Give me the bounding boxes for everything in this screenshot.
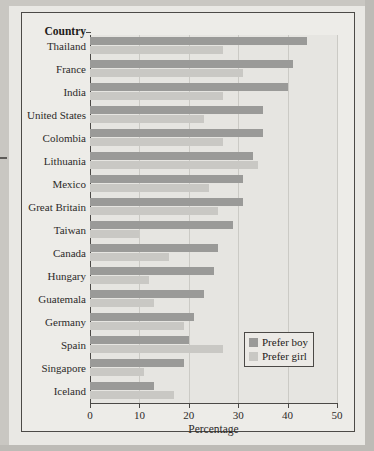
category-label-mexico: Mexico (22, 178, 86, 190)
x-axis-title: Percentage (90, 423, 337, 435)
bar-spain-prefer-girl (90, 345, 223, 353)
bar-france-prefer-boy (90, 60, 293, 68)
category-label-germany: Germany (22, 316, 86, 328)
category-label-canada: Canada (22, 247, 86, 259)
bar-singapore-prefer-boy (90, 359, 184, 367)
legend-label: Prefer girl (262, 350, 307, 362)
bar-guatemala-prefer-boy (90, 290, 204, 298)
figure-frame: Country 01020304050 ThailandFranceIndiaU… (21, 12, 355, 432)
bar-iceland-prefer-girl (90, 391, 174, 399)
legend-label: Prefer boy (262, 336, 308, 348)
bar-lithuania-prefer-girl (90, 161, 258, 169)
bar-mexico-prefer-boy (90, 175, 243, 183)
bar-germany-prefer-boy (90, 313, 194, 321)
x-tick-label-40: 40 (268, 409, 308, 421)
category-label-india: India (22, 86, 86, 98)
chart-legend: Prefer boyPrefer girl (244, 332, 314, 367)
category-label-lithuania: Lithuania (22, 155, 86, 167)
bar-taiwan-prefer-boy (90, 221, 233, 229)
page-edge-bottom (0, 445, 374, 451)
bar-iceland-prefer-boy (90, 382, 154, 390)
bar-united-states-prefer-girl (90, 115, 204, 123)
category-label-colombia: Colombia (22, 132, 86, 144)
margin-dash-mark (0, 157, 7, 159)
bar-canada-prefer-girl (90, 253, 169, 261)
bar-singapore-prefer-girl (90, 368, 144, 376)
bar-colombia-prefer-girl (90, 138, 223, 146)
legend-item: Prefer girl (249, 349, 308, 363)
legend-item: Prefer boy (249, 335, 308, 349)
bar-india-prefer-boy (90, 83, 288, 91)
bar-thailand-prefer-boy (90, 37, 307, 45)
x-tick-label-10: 10 (119, 409, 159, 421)
legend-swatch-icon (249, 352, 258, 361)
bar-hungary-prefer-girl (90, 276, 149, 284)
category-label-taiwan: Taiwan (22, 224, 86, 236)
bar-colombia-prefer-boy (90, 129, 263, 137)
bar-thailand-prefer-girl (90, 46, 223, 54)
x-tick-20 (189, 404, 190, 408)
x-tick-10 (139, 404, 140, 408)
bar-great-britain-prefer-girl (90, 207, 218, 215)
bar-chart: Country 01020304050 ThailandFranceIndiaU… (22, 13, 356, 433)
x-tick-50 (337, 404, 338, 408)
category-label-singapore: Singapore (22, 362, 86, 374)
bar-mexico-prefer-girl (90, 184, 209, 192)
category-label-thailand: Thailand (22, 40, 86, 52)
x-tick-30 (238, 404, 239, 408)
x-axis-line (90, 403, 338, 404)
x-tick-label-20: 20 (169, 409, 209, 421)
bar-india-prefer-girl (90, 92, 223, 100)
x-tick-label-0: 0 (70, 409, 110, 421)
bar-france-prefer-girl (90, 69, 243, 77)
page-edge-right (365, 0, 374, 451)
category-label-hungary: Hungary (22, 270, 86, 282)
category-label-iceland: Iceland (22, 385, 86, 397)
gridline-50 (337, 35, 338, 403)
legend-swatch-icon (249, 338, 258, 347)
bar-germany-prefer-girl (90, 322, 184, 330)
category-label-great-britain: Great Britain (22, 201, 86, 213)
bar-guatemala-prefer-girl (90, 299, 154, 307)
x-tick-40 (288, 404, 289, 408)
x-tick-label-30: 30 (218, 409, 258, 421)
bar-taiwan-prefer-girl (90, 230, 139, 238)
bar-spain-prefer-boy (90, 336, 189, 344)
bar-great-britain-prefer-boy (90, 198, 243, 206)
bar-lithuania-prefer-boy (90, 152, 253, 160)
x-tick-label-50: 50 (317, 409, 357, 421)
category-label-spain: Spain (22, 339, 86, 351)
x-tick-0 (90, 404, 91, 408)
category-label-france: France (22, 63, 86, 75)
category-label-united-states: United States (22, 109, 86, 121)
bar-canada-prefer-boy (90, 244, 218, 252)
y-axis-corner-tick (86, 32, 91, 33)
bar-united-states-prefer-boy (90, 106, 263, 114)
bar-hungary-prefer-boy (90, 267, 214, 275)
y-axis-header-label: Country (22, 25, 86, 37)
category-label-guatemala: Guatemala (22, 293, 86, 305)
